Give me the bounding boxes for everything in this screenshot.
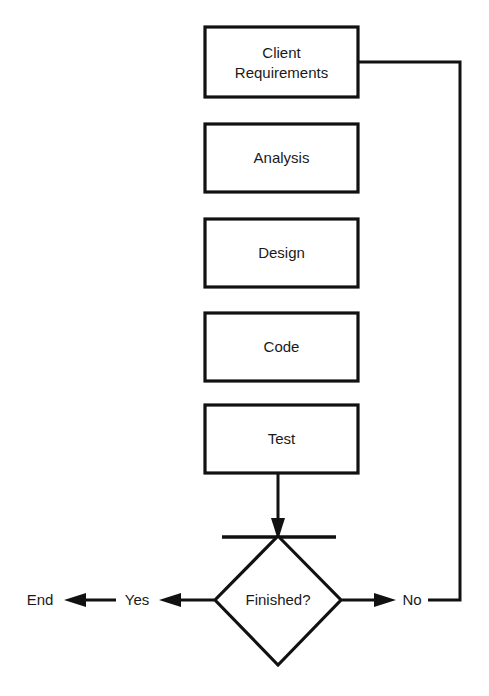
node-test[interactable]: Test [205,405,358,473]
yes-label: Yes [125,591,149,608]
flowchart-diagram: Client Requirements Analysis Design Code… [0,0,489,696]
code-label: Code [264,338,300,355]
no-label: No [402,591,421,608]
finished-label: Finished? [245,591,310,608]
node-finished-decision[interactable]: Finished? [215,536,341,665]
no-arrowhead [374,593,396,607]
edge-finished-no: No [342,591,422,608]
edge-finished-yes: Yes [64,591,214,608]
end-label: End [27,591,54,608]
node-design[interactable]: Design [205,219,358,287]
flowchart-canvas: Client Requirements Analysis Design Code… [0,0,489,696]
client-requirements-label-line2: Requirements [235,64,328,81]
node-analysis[interactable]: Analysis [205,124,358,192]
node-client-requirements[interactable]: Client Requirements [205,27,358,97]
test-label: Test [268,430,296,447]
yes-arrowhead-right [159,593,181,607]
client-requirements-box [205,27,358,97]
client-requirements-label-line1: Client [262,44,301,61]
edge-test-to-finished [271,473,285,540]
analysis-label: Analysis [254,149,310,166]
edge-finished-no-return-path [359,62,460,600]
node-end[interactable]: End [27,591,54,608]
node-code[interactable]: Code [205,313,358,381]
no-return-line [359,62,460,600]
design-label: Design [258,244,305,261]
yes-arrowhead-left [64,593,86,607]
